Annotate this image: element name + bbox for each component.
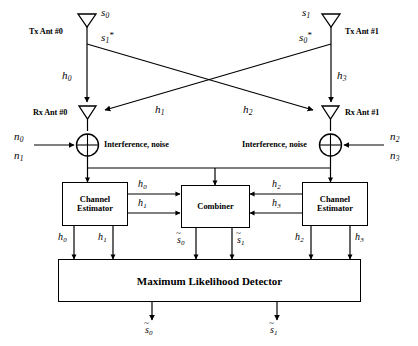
channel-label-h0: h0 — [62, 70, 71, 82]
tx0-symbol-s1-conj-mark: * — [109, 30, 114, 40]
interference-noise-caption-left: Interference, noise — [104, 141, 169, 149]
rx-antenna-1-icon — [322, 106, 339, 131]
est-left-to-combiner-h1-label: h1 — [138, 198, 147, 210]
summing-junction-left-icon — [77, 134, 99, 156]
tx1-symbol-s1-sub: 1 — [306, 11, 310, 20]
det-h0-sub: 0 — [63, 236, 67, 244]
channel-label-h3-sub: 3 — [343, 74, 347, 83]
noise-term-n3-base: n — [390, 149, 396, 161]
combiner-output-s0-accent: ~ — [176, 229, 181, 238]
tx1-symbol-s1: s1 — [302, 7, 310, 19]
det-h2-sub: 2 — [300, 236, 304, 244]
noise-term-n2-sub: 2 — [396, 135, 400, 144]
tx-antenna-1-icon — [322, 14, 340, 44]
est-right-to-combiner-h2-label: h2 — [272, 179, 281, 191]
rx-antenna-0-caption: Rx Ant #0 — [33, 109, 67, 117]
noise-term-n3-sub: 3 — [396, 154, 400, 163]
noise-term-n1-sub: 1 — [20, 154, 24, 163]
noise-term-n1-base: n — [14, 149, 20, 161]
channel-label-h2-base: h — [243, 103, 249, 115]
tx-antenna-0-icon — [78, 14, 96, 44]
tx0-symbol-s0: s0 — [101, 7, 109, 19]
est-left-to-combiner-h0-label: h0 — [138, 179, 147, 191]
det-h3-sub: 3 — [360, 236, 364, 244]
est-right-to-detector-h3-label: h3 — [355, 232, 364, 244]
noise-term-n2: n2 — [390, 131, 399, 143]
tx0-symbol-s1-conj: s1* — [101, 31, 114, 45]
tx0-symbol-s0-sub: 0 — [105, 11, 109, 20]
rx-antenna-0-icon — [79, 106, 96, 131]
tx-antenna-0-caption: Tx Ant #0 — [29, 28, 63, 36]
detector-output-s0-accent: ~ — [144, 319, 149, 328]
combiner-label: Combiner — [182, 202, 249, 211]
noise-term-n0-base: n — [14, 130, 20, 142]
channel-estimator-left-line2: Estimator — [63, 204, 127, 213]
interference-noise-caption-right: Interference, noise — [242, 141, 307, 149]
est-left-to-detector-h0-label: h0 — [58, 232, 67, 244]
combiner-output-s1-sub: 1 — [241, 239, 245, 247]
channel-label-h0-base: h — [62, 69, 68, 81]
path-h2 — [87, 44, 313, 110]
noise-term-n1: n1 — [14, 150, 23, 162]
est-right-to-detector-h2-label: h2 — [295, 232, 304, 244]
channel-label-h1-sub: 1 — [161, 108, 165, 117]
summing-junction-right-icon — [320, 134, 342, 156]
detector-output-s1-label: ~s1 — [270, 325, 278, 337]
detector-output-s0-sub: 0 — [149, 329, 153, 337]
est-right-h3-sub: 3 — [277, 202, 281, 210]
noise-term-n0-sub: 0 — [20, 135, 24, 144]
combiner-output-s1-label: ~s1 — [237, 235, 245, 247]
combiner-output-s0-sub: 0 — [181, 239, 185, 247]
rx-antenna-1-caption: Rx Ant #1 — [345, 109, 379, 117]
noise-term-n0: n0 — [14, 131, 23, 143]
combiner-output-s1-accent: ~ — [236, 229, 241, 238]
est-left-h0-sub: 0 — [143, 183, 147, 191]
channel-estimator-right-line1: Channel — [303, 195, 367, 204]
path-h1 — [105, 44, 331, 110]
maximum-likelihood-detector-block[interactable]: Maximum Likelihood Detector — [58, 259, 361, 302]
channel-label-h0-sub: 0 — [68, 74, 72, 83]
est-left-h1-sub: 1 — [143, 202, 147, 210]
channel-estimator-right-block[interactable]: Channel Estimator — [302, 182, 368, 226]
detector-output-s1-sub: 1 — [274, 329, 278, 337]
channel-label-h1: h1 — [155, 104, 164, 116]
channel-label-h3: h3 — [337, 70, 346, 82]
det-h1-sub: 1 — [103, 236, 107, 244]
channel-label-h3-base: h — [337, 69, 343, 81]
channel-label-h2-sub: 2 — [249, 108, 253, 117]
noise-term-n3: n3 — [390, 150, 399, 162]
tx1-symbol-s0-conj-mark: * — [307, 30, 312, 40]
tx-antenna-1-caption: Tx Ant #1 — [345, 28, 379, 36]
channel-label-h1-base: h — [155, 103, 161, 115]
detector-output-s1-accent: ~ — [269, 319, 274, 328]
channel-estimator-right-line2: Estimator — [303, 204, 367, 213]
alamouti-block-diagram: Channel Estimator Channel Estimator Comb… — [0, 0, 418, 346]
channel-estimator-left-line1: Channel — [63, 195, 127, 204]
channel-label-h2: h2 — [243, 104, 252, 116]
est-right-to-combiner-h3-label: h3 — [272, 198, 281, 210]
combiner-output-s0-label: ~s0 — [177, 235, 185, 247]
combiner-block[interactable]: Combiner — [181, 185, 250, 228]
tx1-symbol-s0-conj: s0* — [299, 31, 312, 45]
est-left-to-detector-h1-label: h1 — [98, 232, 107, 244]
detector-output-s0-label: ~s0 — [145, 325, 153, 337]
est-right-h2-sub: 2 — [277, 183, 281, 191]
noise-term-n2-base: n — [390, 130, 396, 142]
channel-estimator-left-block[interactable]: Channel Estimator — [62, 182, 128, 226]
maximum-likelihood-detector-label: Maximum Likelihood Detector — [59, 275, 360, 287]
